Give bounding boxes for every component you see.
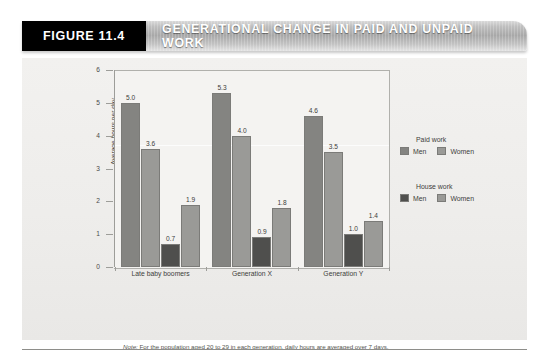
bar-value-label: 0.7 [166, 235, 175, 242]
x-axis-label: Generation Y [298, 270, 389, 277]
y-tick-label: 2 [60, 197, 100, 204]
y-tick [106, 234, 113, 235]
legend-swatch [400, 194, 409, 202]
y-tick-label: 3 [60, 165, 100, 172]
y-tick-label: 5 [60, 99, 100, 106]
figure-title: GENERATIONAL CHANGE IN PAID AND UNPAID W… [162, 21, 517, 51]
footer-rule [22, 349, 527, 350]
bar: 0.9 [252, 237, 271, 267]
bar-value-label: 1.8 [277, 199, 286, 206]
bar-value-label: 4.6 [309, 107, 318, 114]
legend-item-label: Women [450, 195, 474, 202]
legend-item-label: Men [413, 195, 426, 202]
bar-value-label: 3.6 [146, 140, 155, 147]
legend-block: Paid workMenWomen [400, 136, 522, 155]
legend-item[interactable]: Women [437, 194, 474, 202]
bar-value-label: 0.9 [257, 228, 266, 235]
bar-groups: 5.03.60.71.95.34.00.91.84.63.51.01.4 [115, 70, 389, 267]
x-axis-labels: Late baby boomersGeneration XGeneration … [115, 270, 389, 277]
legend-row: MenWomen [400, 147, 522, 155]
x-axis-label: Late baby boomers [115, 270, 206, 277]
bar-value-label: 1.4 [369, 212, 378, 219]
bar: 1.0 [344, 234, 363, 267]
legend-item-label: Women [450, 148, 474, 155]
bar-value-label: 3.5 [329, 143, 338, 150]
legend-item[interactable]: Men [400, 194, 426, 202]
bar-group: 5.34.00.91.8 [206, 70, 297, 267]
legend-item[interactable]: Women [437, 147, 474, 155]
y-tick-label: 1 [60, 230, 100, 237]
bar-value-label: 5.0 [126, 94, 135, 101]
bar-chart: Average hours per day 0123456 5.03.60.71… [22, 58, 527, 340]
bar-group: 5.03.60.71.9 [115, 70, 206, 267]
x-axis-label: Generation X [206, 270, 297, 277]
y-tick [106, 103, 113, 104]
figure-body-panel: Average hours per day 0123456 5.03.60.71… [22, 58, 527, 340]
legend-item[interactable]: Men [400, 147, 426, 155]
bar: 3.5 [324, 152, 343, 267]
legend-block-title: House work [416, 183, 522, 190]
bar-value-label: 1.0 [349, 225, 358, 232]
y-tick [106, 201, 113, 202]
y-tick-label: 0 [60, 263, 100, 270]
legend-swatch [437, 147, 446, 155]
figure-page: FIGURE 11.4 GENERATIONAL CHANGE IN PAID … [0, 0, 549, 358]
y-tick [106, 169, 113, 170]
bar: 3.6 [141, 149, 160, 267]
bar-value-label: 5.3 [217, 84, 226, 91]
bar: 1.9 [181, 205, 200, 267]
legend-block-title: Paid work [416, 136, 522, 143]
bar: 0.7 [161, 244, 180, 267]
bar-value-label: 1.9 [186, 196, 195, 203]
y-tick-label: 6 [60, 66, 100, 73]
legend-swatch [437, 194, 446, 202]
y-tick [106, 267, 113, 268]
y-tick [106, 70, 113, 71]
bar: 1.8 [272, 208, 291, 267]
bar: 5.0 [121, 103, 140, 267]
bar: 1.4 [364, 221, 383, 267]
bar: 5.3 [212, 93, 231, 267]
legend-row: MenWomen [400, 194, 522, 202]
x-tick [389, 267, 390, 271]
y-tick-label: 4 [60, 132, 100, 139]
bar: 4.6 [304, 116, 323, 267]
bar-value-label: 4.0 [237, 127, 246, 134]
legend-block: House workMenWomen [400, 183, 522, 202]
legend-item-label: Men [413, 148, 426, 155]
legend-swatch [400, 147, 409, 155]
y-tick [106, 136, 113, 137]
figure-number: FIGURE 11.4 [22, 21, 146, 51]
bar-group: 4.63.51.01.4 [298, 70, 389, 267]
figure-header-banner: FIGURE 11.4 GENERATIONAL CHANGE IN PAID … [22, 21, 527, 51]
bar: 4.0 [232, 136, 251, 267]
chart-legend: Paid workMenWomenHouse workMenWomen [400, 136, 522, 230]
